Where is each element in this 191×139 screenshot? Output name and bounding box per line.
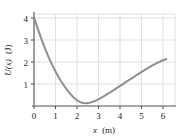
x-tick-label-5: 5: [139, 111, 144, 121]
y-tick-label-2: 2: [24, 58, 29, 68]
x-tick-label-6: 6: [161, 111, 166, 121]
potential-energy-figure: 1 2 3 4 0 1 2 3 4 5 6 x (m) U(x) (J): [0, 0, 191, 139]
y-tick-label-3: 3: [24, 36, 29, 46]
y-axis-title-symbol: U(x): [3, 59, 13, 76]
x-axis-title: x (m): [92, 125, 115, 135]
x-tick-label-1: 1: [53, 111, 58, 121]
y-axis-title: U(x) (J): [3, 44, 13, 75]
y-tick-label-1: 1: [24, 80, 29, 90]
x-tick-label-3: 3: [96, 111, 101, 121]
x-tick-label-0: 0: [32, 111, 37, 121]
x-tick-label-2: 2: [75, 111, 80, 121]
x-tick-label-4: 4: [118, 111, 123, 121]
chart-svg: 1 2 3 4 0 1 2 3 4 5 6 x (m) U(x) (J): [0, 0, 191, 139]
y-axis-title-unit: (J): [3, 44, 13, 54]
x-axis-title-unit: (m): [102, 125, 115, 135]
y-tick-label-4: 4: [24, 14, 29, 24]
x-axis-title-symbol: x: [92, 125, 97, 135]
